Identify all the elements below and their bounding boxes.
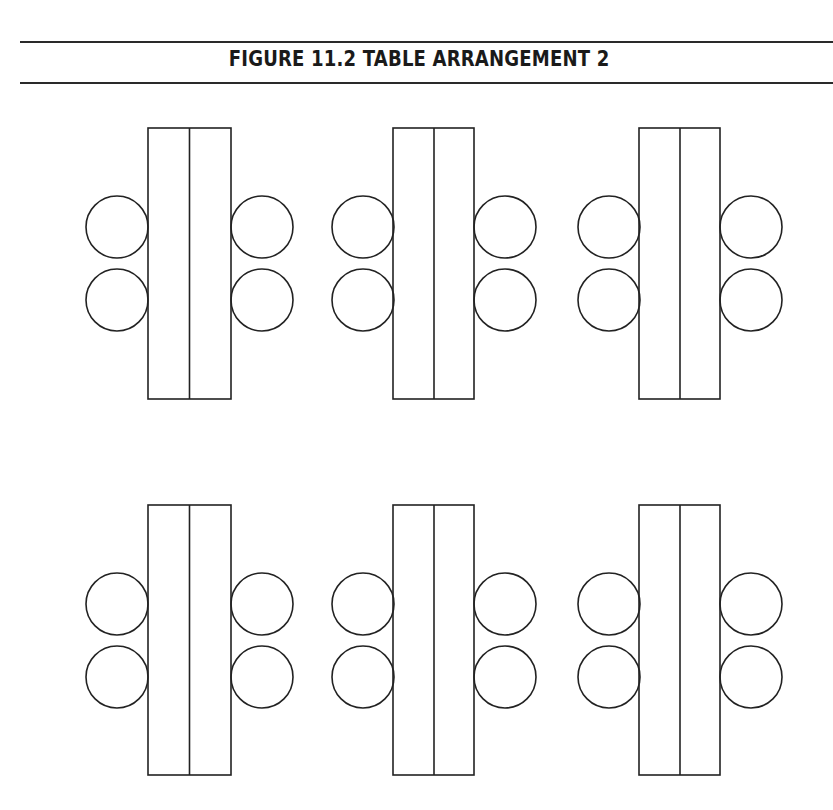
chair: [86, 573, 148, 635]
chair: [474, 646, 536, 708]
table-group: [578, 505, 782, 775]
chair: [86, 646, 148, 708]
chair: [332, 646, 394, 708]
table-arrangement-diagram: [0, 0, 833, 810]
chair: [332, 269, 394, 331]
chair: [86, 269, 148, 331]
chair: [231, 646, 293, 708]
chair: [332, 573, 394, 635]
chair: [474, 573, 536, 635]
chair: [720, 573, 782, 635]
chair: [231, 269, 293, 331]
table-group: [578, 128, 782, 399]
table-group: [86, 128, 293, 399]
chair: [578, 196, 640, 258]
chair: [720, 269, 782, 331]
table-group: [332, 505, 536, 775]
chair: [578, 573, 640, 635]
chair: [578, 269, 640, 331]
chair: [720, 646, 782, 708]
chair: [474, 269, 536, 331]
chair: [231, 573, 293, 635]
table-group: [332, 128, 536, 399]
chair: [86, 196, 148, 258]
table-group: [86, 505, 293, 775]
chair: [332, 196, 394, 258]
chair: [578, 646, 640, 708]
chair: [474, 196, 536, 258]
chair: [231, 196, 293, 258]
chair: [720, 196, 782, 258]
